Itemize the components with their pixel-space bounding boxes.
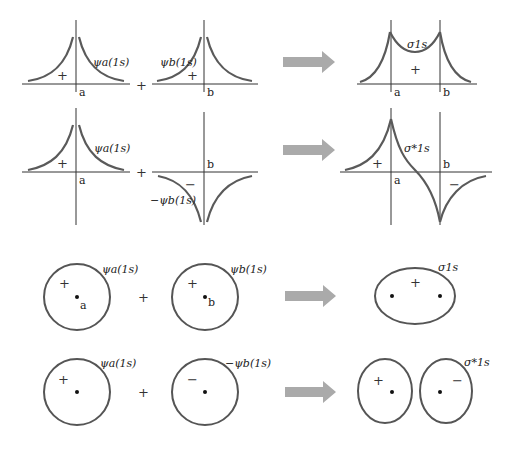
plus-operator: +: [138, 385, 149, 400]
sign-plus: +: [372, 156, 383, 171]
sign-plus: +: [58, 372, 69, 387]
row2-psi-a: + a ψa(1s): [22, 108, 130, 225]
row2-sigma-star-1s: σ*1s + − a b: [340, 108, 492, 225]
sign-plus: +: [410, 275, 421, 290]
psi-b-label: ψb(1s): [160, 56, 197, 69]
row3-orbital-a: + a ψa(1s): [44, 263, 138, 330]
point-a-label: a: [79, 86, 86, 99]
sigma-1s-label: σ1s: [438, 261, 459, 274]
point-a-label: a: [394, 174, 401, 187]
arrow-icon: [285, 285, 336, 307]
point-a-label: a: [394, 86, 401, 99]
sigma-1s-label: σ1s: [407, 38, 428, 51]
neg-psi-b-label: −ψb(1s): [150, 194, 196, 207]
sign-plus: +: [373, 373, 384, 388]
sign-plus: +: [59, 276, 70, 291]
row4-orbital-neg-b: − −ψb(1s): [172, 357, 271, 425]
sign-plus: +: [187, 276, 198, 291]
row3-sigma-1s-orbital: + σ1s: [375, 261, 459, 324]
psi-a-label: ψa(1s): [94, 142, 130, 155]
sign-minus: −: [452, 373, 463, 388]
sign-minus: −: [185, 177, 196, 192]
plus-operator: +: [136, 78, 147, 93]
point-a-label: a: [79, 174, 86, 187]
neg-psi-b-label: −ψb(1s): [225, 357, 271, 370]
sign-minus: −: [449, 177, 460, 192]
psi-a-label: ψa(1s): [100, 357, 136, 370]
point-a-label: a: [80, 299, 87, 312]
row1-psi-a: + a ψa(1s): [22, 20, 130, 99]
row4-orbital-a: + ψa(1s): [44, 357, 136, 425]
arrow-icon: [283, 139, 335, 161]
row3-orbital-b: + b ψb(1s): [172, 263, 267, 330]
psi-a-label: ψa(1s): [102, 263, 138, 276]
mo-diagram: + a ψa(1s) + + b ψb(1s) σ1s + a b + a ψa…: [0, 0, 509, 449]
row4-sigma-star-1s-orbital: + − σ*1s: [358, 356, 490, 423]
sign-plus: +: [410, 62, 421, 77]
sign-plus: +: [187, 68, 198, 83]
point-b-label: b: [207, 158, 214, 171]
point-b-label: b: [443, 86, 450, 99]
plus-operator: +: [138, 290, 149, 305]
plus-operator: +: [136, 165, 147, 180]
point-b-label: b: [207, 86, 214, 99]
point-b-label: b: [208, 296, 215, 309]
sign-plus: +: [57, 68, 68, 83]
row2-neg-psi-b: − b −ψb(1s): [150, 112, 258, 225]
sign-minus: −: [187, 372, 198, 387]
sigma-star-1s-label: σ*1s: [404, 142, 430, 155]
point-b-label: b: [443, 158, 450, 171]
psi-b-label: ψb(1s): [230, 263, 267, 276]
row1-psi-b: + b ψb(1s): [152, 20, 258, 99]
arrow-icon: [283, 51, 335, 73]
arrow-icon: [285, 381, 336, 403]
psi-a-label: ψa(1s): [93, 56, 129, 69]
row1-sigma-1s: σ1s + a b: [357, 20, 477, 99]
sigma-star-1s-label: σ*1s: [464, 356, 490, 369]
sign-plus: +: [57, 156, 68, 171]
